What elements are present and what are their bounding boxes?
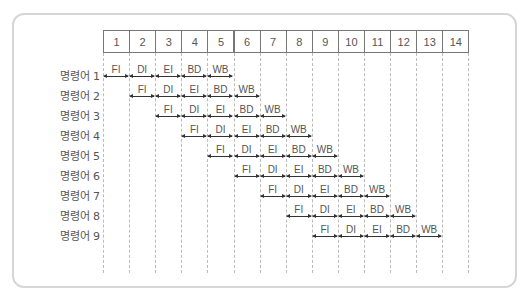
cycle-header-7: 7 <box>260 30 287 53</box>
double-arrow-icon <box>417 236 441 237</box>
double-arrow-icon <box>208 156 232 157</box>
double-arrow-icon <box>208 116 232 117</box>
double-arrow-icon <box>313 236 337 237</box>
double-arrow-icon <box>261 196 285 197</box>
stage-di: DI <box>129 65 155 81</box>
stage-bd: BD <box>234 105 260 121</box>
double-arrow-icon <box>313 216 337 217</box>
cycle-boundary-line <box>260 53 261 273</box>
cycle-header-14: 14 <box>442 30 469 53</box>
stage-bd: BD <box>390 225 416 241</box>
double-arrow-icon <box>182 76 206 77</box>
double-arrow-icon <box>287 216 311 217</box>
double-arrow-icon <box>235 96 259 97</box>
stage-fi: FI <box>181 125 207 141</box>
double-arrow-icon <box>313 196 337 197</box>
cycle-header-8: 8 <box>286 30 313 53</box>
double-arrow-icon <box>339 236 363 237</box>
stage-fi: FI <box>155 105 181 121</box>
cycle-header-3: 3 <box>155 30 182 53</box>
stage-fi: FI <box>103 65 129 81</box>
double-arrow-icon <box>287 176 311 177</box>
cycle-header-2: 2 <box>129 30 156 53</box>
cycle-header-6: 6 <box>234 30 261 53</box>
double-arrow-icon <box>365 236 389 237</box>
stage-di: DI <box>312 205 338 221</box>
double-arrow-icon <box>182 96 206 97</box>
stage-wb: WB <box>364 185 390 201</box>
cycle-header-13: 13 <box>416 30 443 53</box>
double-arrow-icon <box>208 76 232 77</box>
cycle-header-9: 9 <box>312 30 339 53</box>
stage-wb: WB <box>207 65 233 81</box>
stage-di: DI <box>260 165 286 181</box>
cycle-boundary-line <box>442 53 443 273</box>
double-arrow-icon <box>182 136 206 137</box>
cycle-header-5: 5 <box>207 30 234 53</box>
double-arrow-icon <box>339 196 363 197</box>
stage-wb: WB <box>234 85 260 101</box>
stage-bd: BD <box>338 185 364 201</box>
double-arrow-icon <box>391 236 415 237</box>
cycle-boundary-line <box>468 53 469 273</box>
stage-ei: EI <box>155 65 181 81</box>
double-arrow-icon <box>208 136 232 137</box>
instruction-label: 명령어 4 <box>58 127 100 143</box>
double-arrow-icon <box>313 156 337 157</box>
stage-bd: BD <box>260 125 286 141</box>
double-arrow-icon <box>208 96 232 97</box>
instruction-label: 명령어 5 <box>58 147 100 163</box>
double-arrow-icon <box>261 136 285 137</box>
stage-ei: EI <box>312 185 338 201</box>
double-arrow-icon <box>391 216 415 217</box>
stage-wb: WB <box>260 105 286 121</box>
instruction-label: 명령어 8 <box>58 207 100 223</box>
stage-ei: EI <box>234 125 260 141</box>
instruction-label: 명령어 3 <box>58 107 100 123</box>
stage-fi: FI <box>260 185 286 201</box>
stage-fi: FI <box>207 145 233 161</box>
stage-di: DI <box>155 85 181 101</box>
stage-ei: EI <box>181 85 207 101</box>
double-arrow-icon <box>156 76 180 77</box>
stage-wb: WB <box>338 165 364 181</box>
double-arrow-icon <box>339 216 363 217</box>
double-arrow-icon <box>313 176 337 177</box>
double-arrow-icon <box>235 116 259 117</box>
stage-wb: WB <box>312 145 338 161</box>
instruction-label: 명령어 9 <box>58 227 100 243</box>
stage-bd: BD <box>364 205 390 221</box>
cycle-header-10: 10 <box>338 30 365 53</box>
double-arrow-icon <box>235 136 259 137</box>
instruction-label: 명령어 1 <box>58 67 100 83</box>
stage-wb: WB <box>286 125 312 141</box>
double-arrow-icon <box>130 96 154 97</box>
double-arrow-icon <box>365 196 389 197</box>
double-arrow-icon <box>182 116 206 117</box>
stage-ei: EI <box>364 225 390 241</box>
stage-ei: EI <box>286 165 312 181</box>
double-arrow-icon <box>261 176 285 177</box>
instruction-label: 명령어 2 <box>58 87 100 103</box>
stage-fi: FI <box>286 205 312 221</box>
stage-bd: BD <box>286 145 312 161</box>
stage-di: DI <box>286 185 312 201</box>
cycle-boundary-line <box>286 53 287 273</box>
stage-ei: EI <box>260 145 286 161</box>
stage-di: DI <box>338 225 364 241</box>
instruction-label: 명령어 7 <box>58 187 100 203</box>
stage-di: DI <box>234 145 260 161</box>
double-arrow-icon <box>365 216 389 217</box>
double-arrow-icon <box>104 76 128 77</box>
stage-fi: FI <box>312 225 338 241</box>
stage-wb: WB <box>390 205 416 221</box>
double-arrow-icon <box>261 116 285 117</box>
double-arrow-icon <box>235 176 259 177</box>
stage-di: DI <box>207 125 233 141</box>
stage-ei: EI <box>338 205 364 221</box>
stage-fi: FI <box>129 85 155 101</box>
stage-fi: FI <box>234 165 260 181</box>
double-arrow-icon <box>261 156 285 157</box>
stage-wb: WB <box>416 225 442 241</box>
double-arrow-icon <box>339 176 363 177</box>
